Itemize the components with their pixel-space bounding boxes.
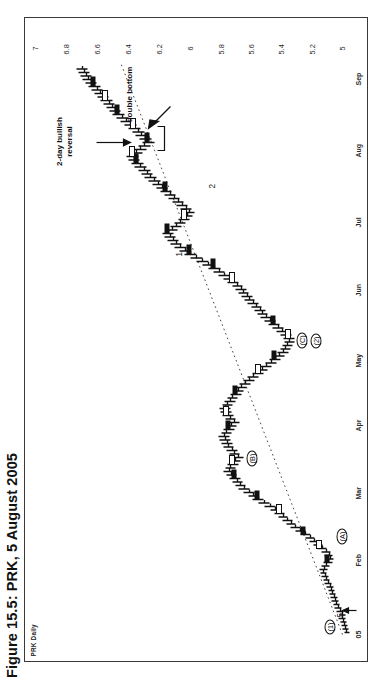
marker-5: 5 [335,612,344,617]
ohlc-bars [76,66,349,633]
annotation-arrows [96,106,356,613]
annotation-reversal-line2: reversal [64,126,73,157]
marker-1: 1 [174,251,183,256]
marker-2: 2 [207,183,216,188]
annotation-2-day-bullish-reversal: 2-day bullish reversal [54,116,73,166]
chart-rotation-wrapper: 7 6.8 6.6 6.4 6.2 6 5.8 5.6 5.4 5.2 5 05… [25,18,367,661]
chart-plate: 7 6.8 6.6 6.4 6.2 6 5.8 5.6 5.4 5.2 5 05… [24,17,368,662]
marker-B-circled: (B) [246,450,257,466]
figure-page: Figure 15.5: PRK, 5 August 2005 7 6.8 6.… [0,0,384,677]
chart-plate-inner: 7 6.8 6.6 6.4 6.2 6 5.8 5.6 5.4 5.2 5 05… [25,18,367,661]
trendline-dotted [120,62,342,634]
page-title: Figure 15.5: PRK, 5 August 2005 [4,418,20,677]
stock-chart: 7 6.8 6.6 6.4 6.2 6 5.8 5.6 5.4 5.2 5 05… [25,18,367,661]
annotation-reversal-line1: 2-day bullish [54,117,63,166]
marker-1-circled: (1) [324,619,335,634]
marker-A-circled: (A) [336,528,347,544]
ohlc-bodies-filled [90,76,329,562]
annotation-double-bottom: double bottom [124,64,134,124]
marker-C-circled: (C) [296,332,307,348]
marker-2-circled: (2) [310,333,321,348]
